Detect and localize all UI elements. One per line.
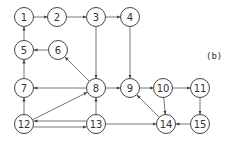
node-label: 15 — [194, 119, 207, 130]
node-label: 3 — [93, 12, 99, 23]
node-label: 9 — [127, 83, 133, 94]
node-5: 5 — [15, 41, 34, 60]
node-label: 4 — [127, 12, 133, 23]
figure-label: (b) — [206, 51, 222, 61]
node-7: 7 — [15, 79, 34, 98]
node-label: 14 — [160, 119, 173, 130]
node-label: 6 — [55, 45, 61, 56]
nodes-layer: 123456789101112131415 — [15, 8, 210, 134]
node-label: 7 — [21, 83, 27, 94]
edge-12-to-8 — [32, 92, 87, 120]
node-label: 5 — [21, 45, 27, 56]
node-8: 8 — [87, 79, 106, 98]
node-1: 1 — [15, 8, 34, 27]
node-label: 11 — [194, 83, 207, 94]
edges-layer — [24, 17, 200, 127]
node-label: 1 — [21, 12, 27, 23]
node-15: 15 — [191, 115, 210, 134]
node-12: 12 — [15, 115, 34, 134]
node-3: 3 — [87, 8, 106, 27]
node-label: 13 — [90, 119, 103, 130]
node-14: 14 — [157, 115, 176, 134]
node-label: 12 — [18, 119, 31, 130]
node-4: 4 — [121, 8, 140, 27]
edge-8-to-6 — [65, 57, 90, 82]
node-6: 6 — [49, 41, 68, 60]
edge-10-to-14 — [164, 97, 165, 114]
node-11: 11 — [191, 79, 210, 98]
node-13: 13 — [87, 115, 106, 134]
edge-14-to-9 — [137, 95, 160, 118]
node-label: 10 — [157, 83, 170, 94]
node-2: 2 — [48, 8, 67, 27]
node-label: 8 — [93, 83, 99, 94]
node-9: 9 — [121, 79, 140, 98]
directed-graph: 123456789101112131415 (b) — [0, 0, 235, 142]
node-10: 10 — [154, 79, 173, 98]
node-label: 2 — [54, 12, 60, 23]
